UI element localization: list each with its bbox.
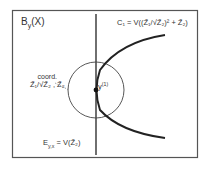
coord-label-line1: coord.	[38, 73, 57, 80]
diagram-figure: By(X) C₁ = V((Z̃₁/√Z̃₂)² + Z̃₂) coord. Z…	[0, 0, 203, 173]
coord-label-line2: Z̃₁/√Z̃₂ , Z̃₂	[30, 81, 65, 89]
curve-c1-label: C₁ = V((Z̃₁/√Z̃₂)² + Z̃₂)	[117, 19, 188, 27]
title-main: B	[21, 16, 28, 27]
line-e-label: Ey,x = V(Z̃₂)	[43, 139, 80, 147]
point-label-sup: (1)	[102, 81, 108, 87]
point-y1-label: y(1)	[98, 83, 108, 91]
region-title: By(X)	[21, 17, 45, 27]
coord-label: coord. Z̃₁/√Z̃₂ , Z̃₂	[30, 73, 65, 89]
title-rest: (X)	[31, 16, 44, 27]
line-label-rest: = V(Z̃₂)	[54, 138, 80, 147]
